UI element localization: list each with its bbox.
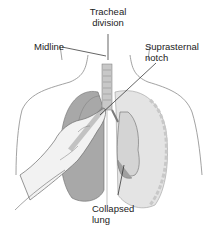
label-suprasternal-notch: Suprasternal notch <box>145 41 199 63</box>
label-collapsed-lung: Collapsed lung <box>92 203 134 225</box>
label-midline: Midline <box>34 41 64 52</box>
anatomy-illustration <box>0 0 209 237</box>
label-tracheal-division: Tracheal division <box>88 6 128 28</box>
